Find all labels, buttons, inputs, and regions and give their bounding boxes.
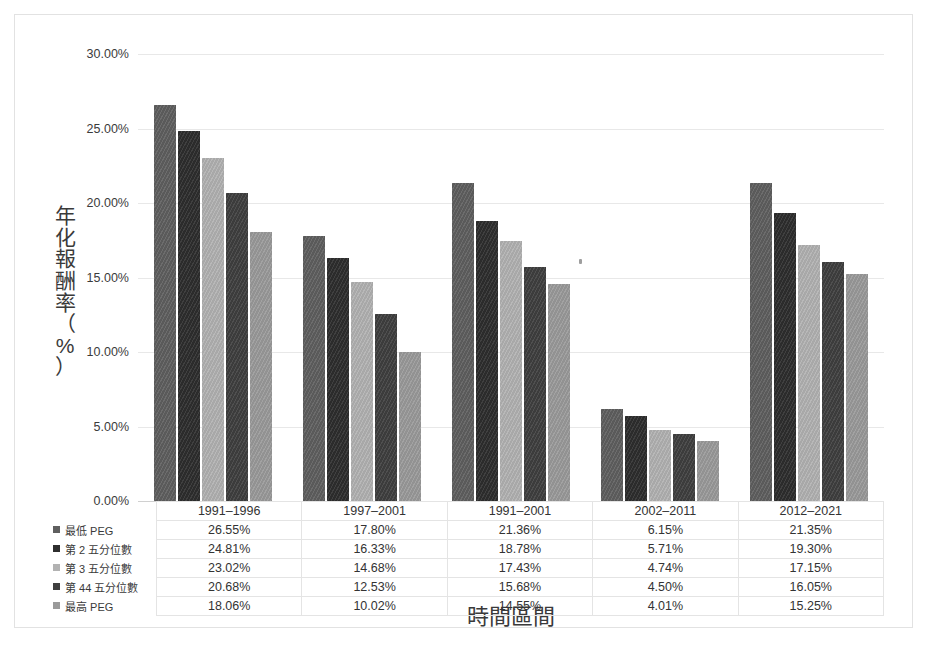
bar[interactable]	[154, 105, 176, 501]
bar[interactable]	[500, 241, 522, 501]
table-cell: 5.71%	[593, 540, 738, 559]
legend-entry[interactable]: 第 3 五分位數	[49, 559, 157, 578]
bar[interactable]	[649, 430, 671, 501]
table-header-row: 1991–19961997–20011991–20012002–20112012…	[49, 502, 884, 521]
y-axis-title-char: 酬	[48, 270, 82, 292]
chart-figure: 年化報酬率（%） 0.00%5.00%10.00%15.00%20.00%25.…	[14, 14, 913, 628]
data-table: 1991–19961997–20011991–20012002–20112012…	[49, 501, 884, 616]
y-axis-title-char: 年	[48, 205, 82, 227]
y-axis-title-char: 報	[48, 248, 82, 270]
table-row: 第 44 五分位數20.68%12.53%15.68%4.50%16.05%	[49, 578, 884, 597]
legend-entry[interactable]: 第 44 五分位數	[49, 578, 157, 597]
y-axis-title: 年化報酬率（%）	[48, 205, 82, 378]
table-head: 1991–19961997–20011991–20012002–20112012…	[49, 502, 884, 521]
y-axis-title-char: （	[48, 313, 82, 335]
bar[interactable]	[351, 282, 373, 501]
bar[interactable]	[846, 274, 868, 501]
bar[interactable]	[226, 193, 248, 501]
y-axis-title-char: 化	[48, 227, 82, 249]
legend-entry[interactable]: 最低 PEG	[49, 521, 157, 540]
bar[interactable]	[625, 416, 647, 501]
table-cell: 16.33%	[302, 540, 447, 559]
bar[interactable]	[697, 441, 719, 501]
bar[interactable]	[601, 409, 623, 501]
table-cell: 23.02%	[157, 559, 302, 578]
table-column-header: 2002–2011	[593, 502, 738, 521]
table-cell: 12.53%	[302, 578, 447, 597]
bar[interactable]	[178, 131, 200, 501]
table-cell: 21.36%	[447, 521, 592, 540]
bar[interactable]	[548, 284, 570, 501]
bar[interactable]	[822, 262, 844, 501]
y-tick-label: 30.00%	[87, 47, 129, 61]
bar[interactable]	[798, 245, 820, 501]
legend-swatch-icon	[53, 564, 60, 571]
legend-entry[interactable]: 最高 PEG	[49, 597, 157, 616]
legend-swatch-icon	[53, 583, 60, 590]
bar-group	[436, 54, 585, 501]
table-row: 最高 PEG18.06%10.02%14.55%4.01%15.25%	[49, 597, 884, 616]
table-column-header: 1991–1996	[157, 502, 302, 521]
bar[interactable]	[750, 183, 772, 501]
table-cell: 15.25%	[738, 597, 883, 616]
legend-label: 最低 PEG	[65, 522, 113, 540]
bar[interactable]	[476, 221, 498, 501]
y-tick-label: 20.00%	[87, 196, 129, 210]
table-cell: 17.43%	[447, 559, 592, 578]
legend-swatch-icon	[53, 526, 60, 533]
table-row: 第 2 五分位數24.81%16.33%18.78%5.71%19.30%	[49, 540, 884, 559]
table-cell: 18.06%	[157, 597, 302, 616]
legend-entry[interactable]: 第 2 五分位數	[49, 540, 157, 559]
table-cell: 15.68%	[447, 578, 592, 597]
table-cell: 16.05%	[738, 578, 883, 597]
bar[interactable]	[375, 314, 397, 501]
bar-group	[287, 54, 436, 501]
table-body: 最低 PEG26.55%17.80%21.36%6.15%21.35%第 2 五…	[49, 521, 884, 616]
bar[interactable]	[452, 183, 474, 501]
plot-area: 0.00%5.00%10.00%15.00%20.00%25.00%30.00%	[138, 54, 884, 501]
y-axis-title-char: 率	[48, 292, 82, 314]
bar-group	[735, 54, 884, 501]
y-tick-label: 25.00%	[87, 122, 129, 136]
legend-swatch-icon	[53, 545, 60, 552]
bar[interactable]	[250, 232, 272, 501]
y-axis-title-char: ）	[48, 356, 82, 378]
bar[interactable]	[303, 236, 325, 501]
legend-label: 第 2 五分位數	[65, 541, 132, 559]
table-cell: 18.78%	[447, 540, 592, 559]
legend-label: 最高 PEG	[65, 598, 113, 616]
table-column-header: 1997–2001	[302, 502, 447, 521]
table-cell: 17.15%	[738, 559, 883, 578]
table-cell: 14.55%	[447, 597, 592, 616]
bar[interactable]	[202, 158, 224, 501]
y-tick-label: 10.00%	[87, 345, 129, 359]
legend-swatch-icon	[53, 602, 60, 609]
table-row: 最低 PEG26.55%17.80%21.36%6.15%21.35%	[49, 521, 884, 540]
table-cell: 20.68%	[157, 578, 302, 597]
table-cell: 21.35%	[738, 521, 883, 540]
table-cell: 17.80%	[302, 521, 447, 540]
table-cell: 10.02%	[302, 597, 447, 616]
scan-artifact-dot	[579, 259, 582, 264]
table-cell: 26.55%	[157, 521, 302, 540]
bar[interactable]	[327, 258, 349, 501]
table-column-header: 2012–2021	[738, 502, 883, 521]
table-corner-cell	[49, 502, 157, 521]
table-cell: 4.01%	[593, 597, 738, 616]
table-column-header: 1991–2001	[447, 502, 592, 521]
table-cell: 24.81%	[157, 540, 302, 559]
legend-label: 第 3 五分位數	[65, 560, 132, 578]
bar[interactable]	[524, 267, 546, 501]
legend-label: 第 44 五分位數	[65, 579, 138, 597]
bar[interactable]	[673, 434, 695, 501]
y-tick-label: 5.00%	[94, 420, 129, 434]
bar[interactable]	[774, 213, 796, 501]
bar-group	[586, 54, 735, 501]
bar-group	[138, 54, 287, 501]
table-cell: 4.74%	[593, 559, 738, 578]
table-cell: 6.15%	[593, 521, 738, 540]
y-tick-label: 15.00%	[87, 271, 129, 285]
bar[interactable]	[399, 352, 421, 501]
table-cell: 14.68%	[302, 559, 447, 578]
table-cell: 19.30%	[738, 540, 883, 559]
